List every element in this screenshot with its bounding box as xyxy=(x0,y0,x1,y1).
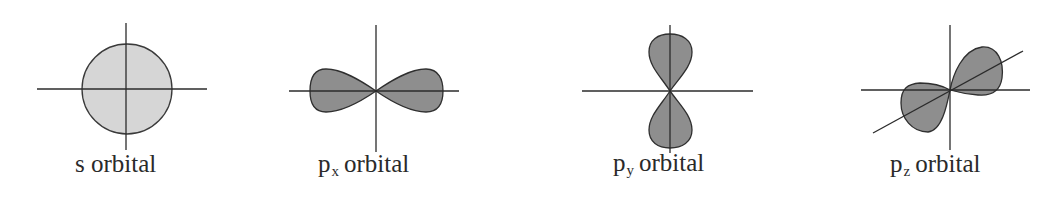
pz-label-subscript: z xyxy=(904,163,911,179)
pz-orbital-label: pzorbital xyxy=(890,151,980,179)
pz-diagonal-axis xyxy=(873,51,1023,133)
pz-label-prefix: p xyxy=(890,150,903,177)
s-label-prefix: s xyxy=(75,150,85,177)
pz-orbital-figure xyxy=(861,25,1030,150)
s-orbital-figure xyxy=(37,23,207,150)
py-label-suffix: orbital xyxy=(639,149,704,176)
s-orbital-label: s orbital xyxy=(75,151,156,176)
py-orbital-label: pyorbital xyxy=(613,150,704,178)
px-label-prefix: p xyxy=(318,150,331,177)
s-label-suffix: orbital xyxy=(91,150,156,177)
px-label-subscript: x xyxy=(332,163,340,179)
px-orbital-label: pxorbital xyxy=(318,151,409,179)
px-label-suffix: orbital xyxy=(344,150,409,177)
py-label-prefix: p xyxy=(613,149,626,176)
pz-upper-right-lobe xyxy=(950,47,1002,95)
px-orbital-figure xyxy=(289,25,459,152)
py-orbital-figure xyxy=(582,25,753,153)
py-label-subscript: y xyxy=(627,162,635,178)
pz-label-suffix: orbital xyxy=(915,150,980,177)
